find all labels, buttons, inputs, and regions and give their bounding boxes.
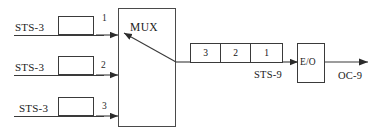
frame-cell-label-3: 3	[203, 48, 208, 58]
frame-cell-3: 3	[190, 43, 221, 63]
input-frame-box-1	[58, 16, 94, 35]
input-frame-box-3	[58, 97, 94, 116]
input-channel-number-2: 2	[101, 61, 106, 71]
frame-cell-2: 2	[220, 43, 251, 63]
diagram-canvas: STS-3 1 STS-3 2 STS-3 3 MUX 3 2 1 STS-9 …	[0, 0, 378, 135]
mux-label: MUX	[130, 22, 158, 34]
electrical-optical-converter-label: E/O	[300, 58, 316, 68]
output-label-oc9: OC-9	[338, 71, 362, 82]
input-channel-number-1: 1	[102, 14, 107, 24]
frame-cell-label-1: 1	[264, 48, 269, 58]
frame-cell-label-2: 2	[233, 48, 238, 58]
frame-caption-sts9: STS-9	[254, 70, 282, 81]
input-label-2: STS-3	[15, 62, 44, 73]
input-line-2	[14, 75, 104, 76]
input-label-1: STS-3	[15, 22, 44, 33]
input-label-3: STS-3	[19, 103, 48, 114]
frame-cell-1: 1	[250, 43, 283, 63]
input-line-1	[14, 35, 104, 36]
input-channel-number-3: 3	[102, 102, 107, 112]
input-frame-box-2	[58, 56, 94, 75]
input-line-3	[14, 116, 104, 117]
